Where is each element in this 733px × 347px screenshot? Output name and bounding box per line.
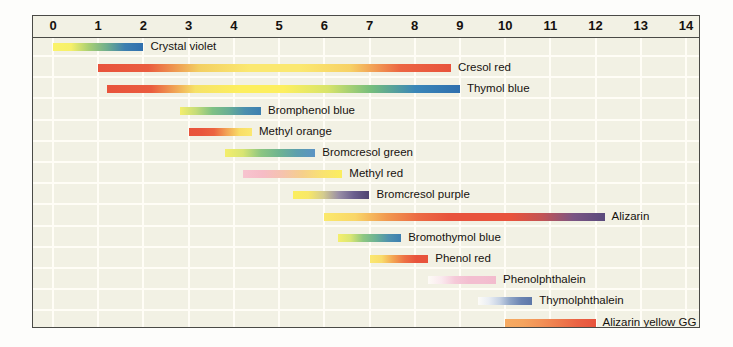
ph-axis: 01234567891011121314	[33, 16, 699, 38]
indicator-row: Alizarin yellow GG	[33, 316, 699, 328]
axis-tick-10: 10	[498, 18, 512, 33]
axis-tick-2: 2	[140, 18, 147, 33]
indicator-label: Methyl orange	[259, 125, 332, 138]
indicator-label: Thymolphthalein	[539, 294, 623, 307]
indicator-range-bar	[243, 170, 342, 178]
indicator-range-bar	[293, 191, 370, 199]
horizontal-gridline	[33, 246, 699, 248]
horizontal-gridline	[33, 161, 699, 163]
indicator-row: Bromphenol blue	[33, 104, 699, 118]
ph-indicator-figure: 01234567891011121314 Crystal violetCreso…	[0, 0, 733, 347]
axis-tick-11: 11	[543, 18, 557, 33]
indicator-row: Methyl red	[33, 167, 699, 181]
indicator-label: Bromphenol blue	[268, 104, 355, 117]
indicator-range-bar	[180, 107, 261, 115]
indicator-range-bar	[225, 149, 315, 157]
indicator-range-bar	[98, 64, 451, 72]
indicator-label: Bromcresol purple	[377, 188, 470, 201]
indicator-row: Methyl orange	[33, 125, 699, 139]
indicator-label: Phenolphthalein	[503, 273, 586, 286]
horizontal-gridline	[33, 140, 699, 142]
indicator-row: Phenol red	[33, 252, 699, 266]
axis-tick-7: 7	[366, 18, 373, 33]
chart-plate: 01234567891011121314 Crystal violetCreso…	[32, 15, 700, 328]
indicator-row: Bromcresol purple	[33, 188, 699, 202]
horizontal-gridline	[33, 288, 699, 290]
indicator-range-bar	[428, 276, 496, 284]
axis-tick-5: 5	[275, 18, 282, 33]
indicator-label: Crystal violet	[150, 40, 216, 53]
indicator-range-bar	[53, 43, 143, 51]
indicator-row: Bromcresol green	[33, 146, 699, 160]
horizontal-gridline	[33, 203, 699, 205]
axis-tick-8: 8	[411, 18, 418, 33]
horizontal-gridline	[33, 309, 699, 311]
indicator-label: Alizarin yellow GG	[603, 316, 697, 328]
horizontal-gridline	[33, 97, 699, 99]
indicator-range-bar	[505, 319, 595, 327]
axis-tick-12: 12	[588, 18, 602, 33]
axis-tick-9: 9	[456, 18, 463, 33]
horizontal-gridline	[33, 76, 699, 78]
axis-tick-6: 6	[321, 18, 328, 33]
horizontal-gridline	[33, 267, 699, 269]
indicator-label: Thymol blue	[467, 82, 530, 95]
indicator-row: Crystal violet	[33, 40, 699, 54]
axis-tick-13: 13	[634, 18, 648, 33]
indicator-row: Phenolphthalein	[33, 273, 699, 287]
indicator-label: Bromcresol green	[322, 146, 413, 159]
indicator-row: Cresol red	[33, 61, 699, 75]
indicator-label: Phenol red	[435, 252, 491, 265]
indicator-range-bar	[107, 85, 460, 93]
axis-tick-0: 0	[49, 18, 56, 33]
indicator-row: Thymolphthalein	[33, 294, 699, 308]
horizontal-gridline	[33, 182, 699, 184]
indicator-range-bar	[478, 297, 532, 305]
horizontal-gridline	[33, 119, 699, 121]
indicator-range-bar	[370, 255, 429, 263]
indicator-row: Alizarin	[33, 210, 699, 224]
horizontal-gridline	[33, 225, 699, 227]
indicator-label: Methyl red	[349, 167, 403, 180]
indicator-label: Cresol red	[458, 61, 511, 74]
horizontal-gridline	[33, 55, 699, 57]
indicator-row: Thymol blue	[33, 82, 699, 96]
indicator-label: Alizarin	[612, 210, 650, 223]
indicator-range-bar	[189, 128, 252, 136]
axis-tick-14: 14	[679, 18, 693, 33]
indicator-range-bar	[338, 234, 401, 242]
indicator-row: Bromothymol blue	[33, 231, 699, 245]
indicator-range-bar	[324, 213, 604, 221]
indicator-label: Bromothymol blue	[408, 231, 501, 244]
axis-tick-4: 4	[230, 18, 237, 33]
axis-tick-3: 3	[185, 18, 192, 33]
axis-tick-1: 1	[95, 18, 102, 33]
plot-area: Crystal violetCresol redThymol blueBromp…	[33, 38, 699, 327]
